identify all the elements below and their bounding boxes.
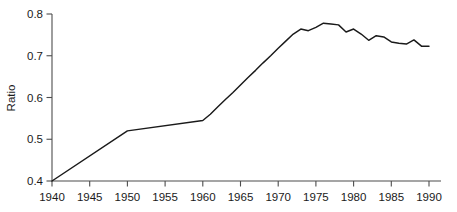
x-tick-label-1955: 1955 [152, 191, 178, 203]
x-tick-label-1960: 1960 [190, 191, 216, 203]
line-chart-figure: 0.40.50.60.70.8 194019451950195519601965… [0, 0, 457, 212]
x-axis-ticks [52, 181, 429, 187]
y-tick-label-0.7: 0.7 [27, 50, 43, 62]
x-tick-label-1970: 1970 [265, 191, 291, 203]
x-tick-label-1990: 1990 [416, 191, 442, 203]
x-tick-label-1950: 1950 [115, 191, 141, 203]
x-tick-label-1945: 1945 [77, 191, 103, 203]
chart-canvas: 0.40.50.60.70.8 194019451950195519601965… [0, 0, 457, 212]
x-tick-label-1975: 1975 [303, 191, 329, 203]
x-tick-label-1940: 1940 [39, 191, 65, 203]
x-tick-label-1980: 1980 [341, 191, 367, 203]
x-axis-tick-labels: 1940194519501955196019651970197519801985… [39, 191, 442, 203]
y-tick-label-0.6: 0.6 [27, 92, 43, 104]
y-tick-label-0.4: 0.4 [27, 175, 44, 187]
data-line-1 [52, 23, 429, 181]
y-tick-label-0.8: 0.8 [27, 8, 43, 20]
y-tick-label-0.5: 0.5 [27, 133, 43, 145]
y-axis-ticks [47, 14, 53, 181]
x-tick-label-1965: 1965 [228, 191, 254, 203]
data-series-group [52, 23, 429, 181]
x-tick-label-1985: 1985 [379, 191, 405, 203]
y-axis-tick-labels: 0.40.50.60.70.8 [27, 8, 44, 187]
y-axis-title: Ratio [5, 85, 17, 112]
